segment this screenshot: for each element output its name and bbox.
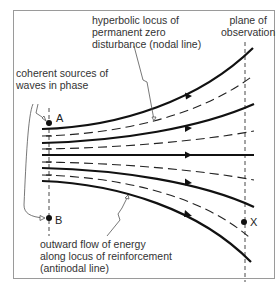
point-b-label: B: [55, 214, 62, 226]
leader-antinodal: [107, 196, 128, 236]
outward-flow-label: outward flow of energy along locus of re…: [40, 238, 172, 274]
point-a-label: A: [56, 112, 63, 124]
source-a-dot: [46, 120, 52, 126]
arrow-icon: [184, 210, 192, 217]
leader-sources-b: [24, 104, 44, 218]
hyperbolic-locus-label: hyperbolic locus of permanent zero distu…: [92, 14, 201, 50]
coherent-sources-label: coherent sources of waves in phase: [16, 67, 108, 91]
point-x-dot: [241, 219, 247, 225]
source-b-dot: [46, 215, 52, 221]
point-x-label: X: [250, 216, 257, 228]
arrow-icon: [185, 152, 192, 159]
plane-of-observation-label: plane of observation: [221, 14, 275, 38]
